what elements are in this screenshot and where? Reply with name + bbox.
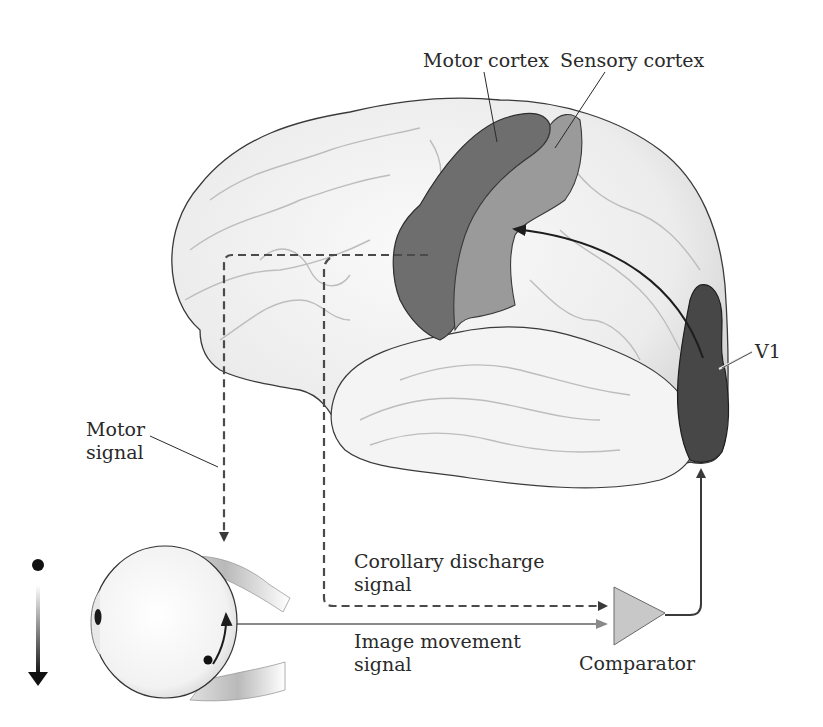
brain-illustration	[172, 98, 729, 488]
diagram-canvas	[0, 0, 823, 727]
image-movement-label: Image movement signal	[354, 630, 521, 676]
comparator-to-v1-path	[665, 470, 701, 615]
retinal-image-dot	[204, 656, 213, 665]
motor-signal-line1: Motor	[86, 418, 145, 441]
motor-signal-line2: signal	[86, 441, 145, 464]
corollary-line2: signal	[354, 573, 545, 596]
arrow-down-icon	[28, 672, 48, 686]
v1-label: V1	[755, 340, 781, 363]
pupil-icon	[95, 609, 102, 625]
motor-signal-label: Motor signal	[86, 418, 145, 464]
sensory-cortex-label: Sensory cortex	[560, 49, 704, 72]
corollary-line1: Corollary discharge	[354, 550, 545, 573]
comparator-label: Comparator	[579, 652, 695, 675]
motion-trail	[36, 585, 40, 675]
stimulus-dot-icon	[32, 559, 44, 571]
image-movement-line1: Image movement	[354, 630, 521, 653]
motor-signal-leader	[150, 436, 218, 467]
stimulus-movement-indicator	[28, 559, 48, 686]
corollary-discharge-label: Corollary discharge signal	[354, 550, 545, 596]
motor-cortex-label: Motor cortex	[423, 49, 549, 72]
eyeball	[93, 546, 237, 698]
image-movement-line2: signal	[354, 653, 521, 676]
comparator-triangle	[614, 587, 665, 645]
